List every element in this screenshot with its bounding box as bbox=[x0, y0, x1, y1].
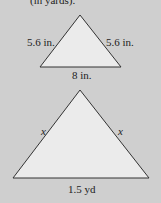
large-left-side-label: x bbox=[41, 126, 46, 137]
large-triangle bbox=[13, 90, 149, 178]
triangles-diagram bbox=[0, 0, 161, 203]
small-base-label: 8 in. bbox=[72, 70, 92, 81]
small-left-side-label: 5.6 in. bbox=[27, 37, 55, 48]
large-base-label: 1.5 yd bbox=[68, 184, 96, 195]
small-right-side-label: 5.6 in. bbox=[106, 37, 134, 48]
large-right-side-label: x bbox=[118, 126, 123, 137]
